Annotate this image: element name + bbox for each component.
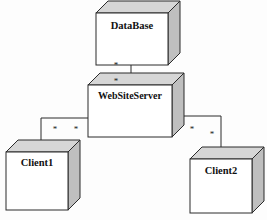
node-database-top-face [96, 1, 180, 13]
node-client2-side-face [252, 147, 264, 213]
node-client1-top-face [6, 140, 80, 152]
node-websiteserver-top-face [88, 73, 184, 85]
multiplicity-database-end: * [114, 60, 119, 70]
multiplicity-websiteserver-left-end: * [74, 124, 79, 134]
multiplicity-client1-end: * [53, 124, 58, 134]
multiplicity-websiteserver-top-end: * [114, 76, 119, 86]
uml-deployment-diagram: DataBase WebSiteServer Client1 Client2 *… [0, 0, 267, 220]
node-database[interactable]: DataBase [96, 1, 180, 65]
multiplicity-client2-end: * [210, 129, 215, 139]
node-database-label: DataBase [111, 20, 154, 31]
node-client2-label: Client2 [205, 165, 238, 176]
multiplicity-websiteserver-right-end: * [190, 124, 195, 134]
node-websiteserver-side-face [172, 73, 184, 137]
node-websiteserver[interactable]: WebSiteServer [88, 73, 184, 137]
node-database-side-face [168, 1, 180, 65]
node-client2[interactable]: Client2 [190, 147, 264, 213]
node-client2-top-face [190, 147, 264, 159]
diagram-canvas-svg: DataBase WebSiteServer Client1 Client2 *… [0, 0, 267, 220]
node-websiteserver-label: WebSiteServer [98, 90, 162, 101]
node-client1-side-face [68, 140, 80, 210]
node-client1-label: Client1 [21, 157, 54, 168]
node-client1[interactable]: Client1 [6, 140, 80, 210]
